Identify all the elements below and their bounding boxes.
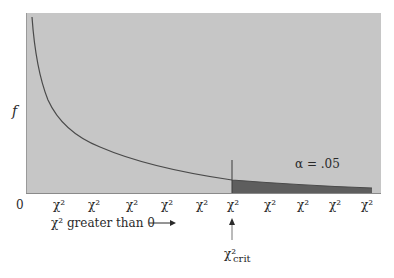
x-tick-label: χ²: [264, 198, 276, 212]
x-tick-label: χ²: [227, 198, 239, 212]
x-tick-label: χ²: [361, 198, 373, 212]
x-origin-label: 0: [16, 198, 24, 212]
x-tick-label: χ²: [161, 198, 173, 212]
x-tick-labels: χ² χ² χ² χ² χ² χ² χ² χ² χ² χ²: [53, 198, 373, 212]
x-tick-label: χ²: [196, 198, 208, 212]
chi-square-chart: α = .05 f 0 χ² χ² χ² χ² χ² χ² χ² χ² χ² χ…: [0, 0, 394, 278]
x-axis-label: χ² greater than 0: [51, 216, 155, 230]
x-tick-label: χ²: [126, 198, 138, 212]
x-tick-label: χ²: [297, 198, 309, 212]
critical-value-arrow-icon: [229, 218, 235, 240]
y-axis-label: f: [11, 103, 20, 119]
x-tick-label: χ²: [53, 198, 65, 212]
critical-value-subscript: crit: [233, 253, 251, 264]
alpha-annotation: α = .05: [295, 157, 340, 171]
x-tick-label: χ²: [329, 198, 341, 212]
x-tick-label: χ²: [88, 198, 100, 212]
